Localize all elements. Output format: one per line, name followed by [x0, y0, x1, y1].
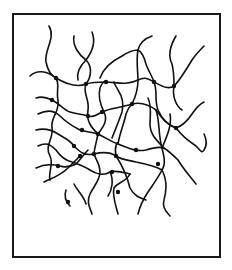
crosslink-node: [134, 148, 138, 152]
crosslink-node: [100, 110, 104, 114]
crosslink-node: [152, 80, 156, 84]
crosslink-node: [96, 132, 100, 136]
crosslink-node: [104, 80, 108, 84]
network-canvas: [0, 0, 232, 270]
crosslink-node: [86, 114, 90, 118]
crosslink-node: [172, 84, 176, 88]
polymer-chains: [30, 26, 206, 216]
crosslink-node: [78, 154, 82, 158]
crosslink-node: [80, 128, 84, 132]
crosslink-node: [50, 98, 54, 102]
polymer-network-diagram: [0, 0, 232, 270]
crosslink-node: [110, 170, 114, 174]
crosslink-node: [156, 162, 160, 166]
crosslink-node: [116, 190, 120, 194]
crosslink-node: [72, 144, 76, 148]
crosslink-node: [54, 76, 58, 80]
crosslink-node: [92, 152, 96, 156]
crosslink-node: [130, 102, 134, 106]
crosslink-node: [56, 164, 60, 168]
crosslink-node: [174, 126, 178, 130]
crosslink-node: [114, 154, 118, 158]
crosslink-node: [84, 82, 88, 86]
crosslink-node: [66, 200, 70, 204]
figure-frame: [13, 14, 220, 257]
